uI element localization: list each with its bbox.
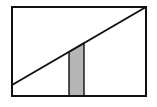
geometry-diagram bbox=[0, 0, 157, 107]
